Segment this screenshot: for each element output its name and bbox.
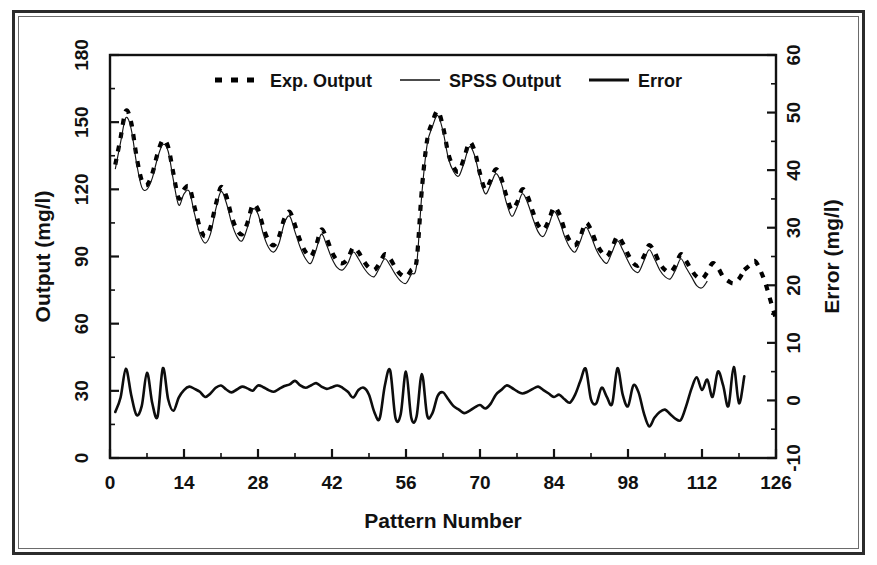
series-line-1 bbox=[744, 261, 776, 319]
chart-plot: 0142842567084981121260306090120150180-10… bbox=[0, 0, 877, 565]
y2-tick-label: 60 bbox=[783, 44, 804, 65]
x-tick-label: 28 bbox=[247, 472, 268, 493]
y-tick-label: 0 bbox=[71, 453, 92, 464]
x-tick-label: 98 bbox=[617, 472, 638, 493]
series-line-3 bbox=[115, 367, 744, 426]
x-axis-title: Pattern Number bbox=[364, 509, 522, 532]
y2-tick-label: 0 bbox=[783, 395, 804, 406]
y-tick-label: 60 bbox=[71, 313, 92, 334]
x-tick-label: 70 bbox=[469, 472, 490, 493]
x-tick-label: 0 bbox=[105, 472, 116, 493]
legend-label-0: Exp. Output bbox=[270, 71, 372, 91]
plot-border bbox=[110, 55, 776, 458]
figure-container: 0142842567084981121260306090120150180-10… bbox=[0, 0, 877, 565]
x-tick-label: 14 bbox=[173, 472, 195, 493]
series-line-2 bbox=[115, 115, 707, 288]
y2-tick-label: 50 bbox=[783, 102, 804, 123]
y2-tick-label: 10 bbox=[783, 332, 804, 353]
y-axis-title: Output (mg/l) bbox=[31, 191, 54, 323]
x-tick-label: 56 bbox=[395, 472, 416, 493]
y-tick-label: 180 bbox=[71, 39, 92, 71]
y-tick-label: 90 bbox=[71, 246, 92, 267]
y-tick-label: 150 bbox=[71, 106, 92, 138]
x-tick-label: 126 bbox=[760, 472, 792, 493]
plot-frame bbox=[110, 55, 776, 458]
y2-tick-label: 30 bbox=[783, 217, 804, 238]
series-clip-group bbox=[115, 110, 776, 426]
y2-tick-label: 40 bbox=[783, 160, 804, 181]
series-line-0 bbox=[115, 110, 744, 283]
x-tick-label: 84 bbox=[543, 472, 565, 493]
y-tick-label: 30 bbox=[71, 380, 92, 401]
axis-ticks bbox=[110, 55, 776, 458]
y2-tick-label: 20 bbox=[783, 275, 804, 296]
legend-label-2: Error bbox=[638, 71, 682, 91]
x-tick-label: 42 bbox=[321, 472, 342, 493]
x-tick-label: 112 bbox=[687, 472, 718, 493]
y2-axis-title: Error (mg/l) bbox=[820, 199, 843, 313]
y2-tick-label: -10 bbox=[783, 444, 804, 471]
data-series-group bbox=[115, 110, 776, 426]
y-tick-label: 120 bbox=[71, 173, 92, 205]
legend-label-1: SPSS Output bbox=[449, 71, 561, 91]
legend: Exp. OutputSPSS OutputError bbox=[215, 71, 682, 91]
